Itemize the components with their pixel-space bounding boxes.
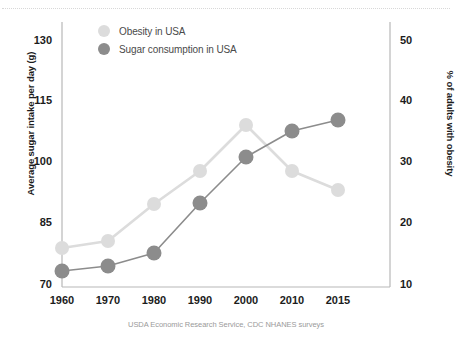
legend-label-obesity: Obesity in USA	[119, 26, 185, 37]
series-line-obesity	[62, 125, 338, 248]
data-point-obesity-2015	[331, 183, 345, 197]
left-axis-title: Average sugar intake per day (g)	[25, 34, 36, 214]
x-tick-1990: 1990	[175, 294, 225, 306]
data-point-sugar-2010	[285, 124, 300, 139]
right-axis-title: % of adults with obesity	[445, 34, 456, 214]
legend-swatch-sugar-icon	[98, 43, 110, 55]
x-tick-2000: 2000	[221, 294, 271, 306]
right-tick-20: 20	[400, 216, 434, 228]
data-point-obesity-2010	[285, 164, 299, 178]
right-tick-50: 50	[400, 34, 434, 46]
x-tick-1970: 1970	[83, 294, 133, 306]
data-point-obesity-1990	[193, 164, 207, 178]
data-point-obesity-1960	[55, 241, 69, 255]
x-tick-1980: 1980	[129, 294, 179, 306]
right-tick-40: 40	[400, 94, 434, 106]
right-tick-30: 30	[400, 155, 434, 167]
data-point-obesity-2000	[239, 118, 253, 132]
x-tick-2015: 2015	[313, 294, 363, 306]
left-tick-70: 70	[18, 278, 52, 290]
legend-swatch-obesity-icon	[98, 25, 110, 37]
legend-item-obesity: Obesity in USA	[98, 22, 237, 40]
data-point-obesity-1970	[101, 234, 115, 248]
data-point-sugar-1960	[55, 264, 70, 279]
chart-legend: Obesity in USA Sugar consumption in USA	[98, 22, 237, 58]
x-tick-1960: 1960	[37, 294, 87, 306]
data-point-sugar-1980	[147, 246, 162, 261]
left-tick-100: 100	[18, 155, 52, 167]
data-point-sugar-2015	[331, 113, 346, 128]
left-tick-130: 130	[18, 34, 52, 46]
data-point-obesity-1980	[147, 197, 161, 211]
legend-item-sugar: Sugar consumption in USA	[98, 40, 237, 58]
left-tick-85: 85	[18, 216, 52, 228]
legend-label-sugar: Sugar consumption in USA	[119, 44, 237, 55]
data-point-sugar-1970	[101, 259, 116, 274]
left-tick-115: 115	[18, 94, 52, 106]
x-tick-2010: 2010	[267, 294, 317, 306]
chart-source-caption: USDA Economic Research Service, CDC NHAN…	[0, 320, 452, 329]
right-tick-10: 10	[400, 278, 434, 290]
data-point-sugar-2000	[239, 150, 254, 165]
data-point-sugar-1990	[193, 196, 208, 211]
